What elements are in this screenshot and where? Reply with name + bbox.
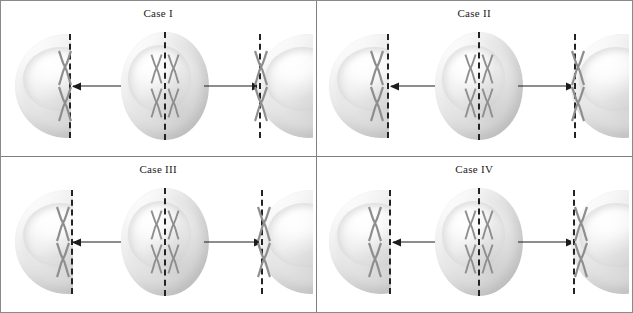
- chromosome-icon: [53, 206, 73, 242]
- panel-title-case-4: Case IV: [317, 163, 633, 175]
- chromosome-icon: [462, 208, 479, 242]
- chromosome-icon: [367, 50, 387, 86]
- chromosome-icon: [165, 52, 182, 86]
- chromosome-icon: [568, 86, 588, 122]
- chromosome-icon: [165, 86, 182, 120]
- chromosome-group-mother-4: [462, 208, 496, 276]
- right-daughter-cell-2: [571, 34, 629, 138]
- right-daughter-cell-4: [571, 190, 629, 294]
- mother-cell-1: [121, 32, 209, 140]
- chromosome-icon: [254, 242, 274, 278]
- chromosome-icon: [462, 52, 479, 86]
- case-3-stage: [1, 177, 316, 309]
- chromosome-icon: [367, 86, 387, 122]
- arrow-right-4: [518, 242, 574, 243]
- chromosome-group-right-1: [251, 50, 271, 122]
- panel-case-2: Case II: [317, 1, 633, 157]
- chromosome-group-mother-3: [148, 208, 182, 276]
- arrow-right-2: [518, 86, 574, 87]
- chromosome-icon: [571, 206, 591, 242]
- chromosome-icon: [479, 86, 496, 120]
- panel-case-1: Case I: [1, 1, 317, 157]
- chromosome-icon: [462, 242, 479, 276]
- mother-cell-4: [435, 188, 523, 296]
- arrowhead-left-icon: [72, 239, 81, 247]
- chromosome-icon: [148, 242, 165, 276]
- case-1-stage: [1, 21, 316, 152]
- panel-title-case-3: Case III: [1, 163, 316, 175]
- chromosome-icon: [55, 86, 75, 122]
- chromosome-icon: [55, 50, 75, 86]
- chromosome-group-right-4: [571, 206, 591, 278]
- case-4-stage: [317, 177, 633, 309]
- chromosome-icon: [148, 208, 165, 242]
- chromosome-group-left-2: [367, 50, 387, 122]
- panel-case-3: Case III: [1, 157, 317, 313]
- cleavage-plane-left-2: [387, 34, 389, 138]
- chromosome-icon: [251, 50, 271, 86]
- chromosome-icon: [165, 242, 182, 276]
- chromosome-group-mother-1: [148, 52, 182, 120]
- chromosome-icon: [254, 206, 274, 242]
- chromosome-icon: [251, 86, 271, 122]
- chromosome-group-right-3: [254, 206, 274, 278]
- chromosome-group-right-2: [568, 50, 588, 122]
- chromosome-icon: [479, 208, 496, 242]
- chromosome-group-left-4: [365, 206, 385, 278]
- chromosome-icon: [568, 50, 588, 86]
- panel-title-case-2: Case II: [317, 7, 633, 19]
- case-2-stage: [317, 21, 633, 152]
- panel-case-4: Case IV: [317, 157, 633, 313]
- chromosome-icon: [365, 206, 385, 242]
- chromosome-icon: [365, 242, 385, 278]
- chromosome-icon: [165, 208, 182, 242]
- cell-division-figure: Case I: [0, 0, 633, 313]
- chromosome-group-mother-2: [462, 52, 496, 120]
- right-daughter-cell-1: [257, 34, 313, 138]
- chromosome-icon: [53, 242, 73, 278]
- case-grid: Case I: [1, 1, 632, 312]
- chromosome-icon: [479, 242, 496, 276]
- chromosome-icon: [148, 52, 165, 86]
- panel-title-case-1: Case I: [1, 7, 316, 19]
- arrowhead-left-icon: [392, 239, 401, 247]
- mother-cell-2: [435, 32, 523, 140]
- right-daughter-cell-3: [259, 190, 313, 294]
- cleavage-plane-left-4: [389, 190, 391, 294]
- mother-cell-3: [121, 188, 209, 296]
- arrowhead-left-icon: [72, 83, 81, 91]
- chromosome-icon: [148, 86, 165, 120]
- arrowhead-left-icon: [390, 83, 399, 91]
- chromosome-icon: [462, 86, 479, 120]
- chromosome-group-left-3: [53, 206, 73, 278]
- chromosome-icon: [479, 52, 496, 86]
- chromosome-icon: [571, 242, 591, 278]
